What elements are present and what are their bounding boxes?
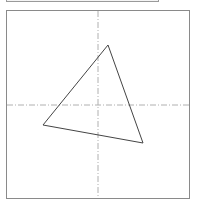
triangle-shape[interactable]: [43, 45, 143, 143]
diagram-svg: [0, 0, 200, 210]
